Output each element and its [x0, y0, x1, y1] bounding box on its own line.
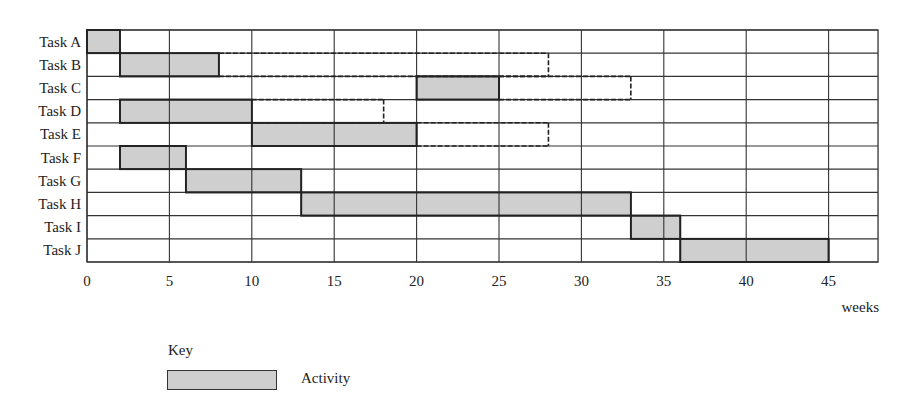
x-tick-label: 30: [574, 273, 589, 289]
legend-title: Key: [168, 342, 193, 359]
task-label: Task C: [39, 80, 81, 96]
x-tick-label: 35: [656, 273, 671, 289]
x-tick-label: 5: [166, 273, 174, 289]
x-tick-label: 15: [327, 273, 342, 289]
task-label: Task B: [39, 57, 81, 73]
task-label: Task A: [39, 34, 81, 50]
task-label: Task J: [43, 242, 81, 258]
activity-bar: [631, 216, 680, 239]
x-tick-label: 0: [83, 273, 91, 289]
task-label: Task H: [38, 196, 81, 212]
x-tick-label: 25: [492, 273, 507, 289]
task-label: Task F: [41, 150, 81, 166]
activity-bar: [186, 169, 301, 192]
gantt-chart: Task ATask BTask CTask DTask ETask FTask…: [0, 0, 902, 394]
task-label: Task G: [38, 173, 81, 189]
activity-bar: [120, 146, 186, 169]
x-axis-label: weeks: [842, 299, 880, 315]
legend-activity-swatch: [167, 370, 277, 390]
x-tick-label: 45: [821, 273, 836, 289]
task-label: Task E: [40, 126, 81, 142]
legend-activity-label: Activity: [301, 370, 350, 387]
task-label: Task D: [38, 103, 81, 119]
activity-bar: [417, 76, 499, 99]
x-tick-label: 20: [409, 273, 424, 289]
activity-bar: [680, 239, 828, 262]
activity-bar: [87, 30, 120, 53]
activity-bar: [120, 100, 252, 123]
x-tick-label: 10: [244, 273, 259, 289]
x-tick-label: 40: [739, 273, 754, 289]
task-label: Task I: [44, 219, 81, 235]
